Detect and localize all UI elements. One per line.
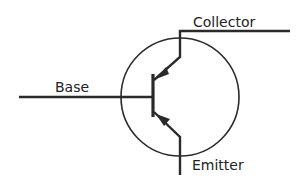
collector-label: Collector xyxy=(193,14,255,30)
emitter-label: Emitter xyxy=(192,157,244,173)
transistor-diagram: Base Collector Emitter xyxy=(0,0,302,182)
base-label: Base xyxy=(55,79,89,95)
transistor-symbol: Base Collector Emitter xyxy=(0,0,302,182)
